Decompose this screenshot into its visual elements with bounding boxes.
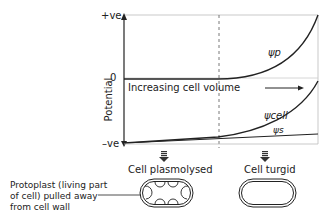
y-axis-label: Potential [103,75,114,125]
protoplast-annotation: Protoplast (living part of cell) pulled … [10,180,107,213]
state-turgid: Cell turgid [244,164,296,175]
y-tick-positive: +ve [101,10,121,21]
psi-cell-label: ψcell [264,110,288,121]
psi-p-label: ψp [268,47,281,58]
state-plasmolysed: Cell plasmolysed [128,164,213,175]
x-axis-label: Increasing cell volume [128,82,240,93]
y-tick-negative: –ve [102,138,119,149]
psi-s-label: ψs [273,125,284,135]
